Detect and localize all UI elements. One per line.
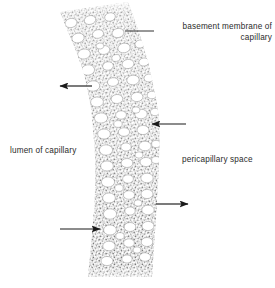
fenestration-pore [103, 241, 115, 251]
fenestration-pore [152, 140, 161, 147]
label-basement-membrane-of-capillary: basement membrane of capillary [156, 22, 272, 43]
fenestration-pore [124, 223, 136, 232]
fenestration-pore [104, 225, 117, 235]
fenestration-pore [101, 177, 114, 187]
fenestration-pore [101, 256, 113, 265]
fenestration-pore [150, 108, 159, 116]
fenestration-pore [141, 189, 153, 198]
capillary-wall-band [50, 0, 170, 288]
fenestration-pore [141, 238, 153, 247]
fenestration-pore [142, 221, 154, 230]
fenestration-pore [115, 185, 123, 192]
fenestration-pore [124, 239, 135, 247]
fenestration-pore [125, 207, 135, 215]
fenestration-pore [142, 205, 154, 215]
fenestration-pore [134, 200, 142, 206]
fenestration-pore [140, 157, 152, 166]
fenestration-pore [98, 129, 111, 139]
fenestration-pore [122, 255, 132, 263]
fenestration-pore [135, 152, 143, 158]
fenestration-pore [116, 233, 124, 240]
label-lumen-of-capillary: lumen of capillary [10, 146, 102, 157]
fenestration-pore [141, 173, 153, 183]
capillary-diagram-figure: basement membrane of capillary lumen of … [0, 0, 275, 288]
fenestration-pore [132, 107, 140, 113]
fenestration-pore [123, 175, 134, 183]
fenestration-pore [123, 191, 134, 200]
fenestration-pore [139, 141, 151, 151]
fenestration-pore [101, 161, 114, 171]
fenestration-pore [118, 128, 129, 137]
label-pericapillary-space: pericapillary space [182, 155, 272, 166]
fenestration-pore [133, 247, 141, 253]
fenestration-pore [103, 209, 116, 219]
fenestration-pore [115, 111, 126, 120]
fenestration-pore [152, 157, 161, 164]
fenestration-pore [137, 125, 149, 134]
diagram-canvas [0, 0, 275, 288]
fenestration-pore [121, 143, 131, 151]
fenestration-pore [114, 121, 122, 128]
fenestration-pore [139, 253, 150, 262]
fenestration-pore [103, 193, 116, 203]
fenestration-pore [94, 113, 108, 124]
fenestration-pore [121, 159, 133, 168]
